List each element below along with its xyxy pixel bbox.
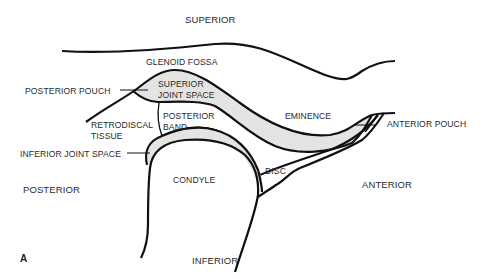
tmj-drawing — [0, 0, 485, 279]
label-inferior: INFERIOR — [192, 256, 238, 266]
retrodiscal-line — [158, 103, 162, 136]
label-superior-joint-space-1: SUPERIOR — [158, 79, 204, 89]
label-inferior-joint-space: INFERIOR JOINT SPACE — [20, 149, 121, 159]
label-posterior: POSTERIOR — [23, 185, 80, 195]
label-condyle: CONDYLE — [173, 175, 215, 185]
skull-outline — [62, 44, 395, 80]
label-posterior-band-1: POSTERIOR — [163, 111, 215, 121]
label-anterior: ANTERIOR — [362, 180, 412, 190]
label-disc: DISC — [265, 166, 286, 176]
label-retrodiscal-2: TISSUE — [91, 131, 123, 141]
panel-label: A — [20, 253, 27, 264]
label-posterior-band-2: BAND — [163, 122, 187, 132]
tmj-diagram: SUPERIOR GLENOID FOSSA POSTERIOR POUCH S… — [0, 0, 485, 279]
label-posterior-pouch: POSTERIOR POUCH — [25, 86, 111, 96]
condyle-outline — [141, 140, 258, 272]
label-superior-joint-space-2: JOINT SPACE — [158, 90, 215, 100]
label-glenoid-fossa: GLENOID FOSSA — [146, 57, 218, 67]
label-anterior-pouch: ANTERIOR POUCH — [387, 119, 466, 129]
label-retrodiscal-1: RETRODISCAL — [91, 120, 153, 130]
label-superior: SUPERIOR — [185, 15, 235, 25]
label-eminence: EMINENCE — [285, 111, 331, 121]
